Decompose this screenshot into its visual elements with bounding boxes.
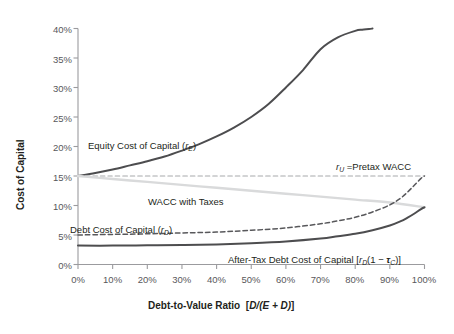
x-tick-90: 90% <box>371 274 407 285</box>
x-tick-100: 100% <box>406 274 442 285</box>
debt-cost-label-text: Debt Cost of Capital ( <box>70 224 161 235</box>
aftertax-debt-cost-label: After-Tax Debt Cost of Capital [rD(1 − τ… <box>228 254 401 266</box>
wacc-with-taxes-label: WACC with Taxes <box>148 196 224 207</box>
aftertax-mid: (1 <box>367 254 378 265</box>
x-axis-title-bracket-close: ] <box>291 300 294 311</box>
x-tick-20: 20% <box>129 274 165 285</box>
x-tick-10: 10% <box>95 274 131 285</box>
x-axis-title-main: Debt-to-Value Ratio <box>148 300 240 311</box>
y-axis-title: Cost of Capital <box>15 139 26 210</box>
aftertax-minus: − <box>378 254 384 265</box>
y-tick-0: 0% <box>30 260 72 271</box>
debt-cost-label: Debt Cost of Capital (rD) <box>70 224 172 236</box>
y-tick-40: 40% <box>30 24 72 35</box>
y-tick-20: 20% <box>30 142 72 153</box>
y-tick-5: 5% <box>30 231 72 242</box>
cost-of-capital-chart: 40% 35% 30% 25% 20% 15% 10% 5% 0% 0% 10%… <box>0 0 454 334</box>
x-tick-80: 80% <box>337 274 373 285</box>
aftertax-tail: )] <box>395 254 401 265</box>
y-tick-25: 25% <box>30 113 72 124</box>
series-curve-2 <box>78 176 425 207</box>
x-tick-0: 0% <box>60 274 96 285</box>
pretax-wacc-text: =Pretax WACC <box>344 161 411 172</box>
series-curves <box>78 29 425 246</box>
y-tick-35: 35% <box>30 54 72 65</box>
y-tick-15: 15% <box>30 172 72 183</box>
series-curve-0 <box>78 29 373 177</box>
x-axis-title-formula: D/(E + D) <box>249 300 291 311</box>
x-axis-title: Debt-to-Value Ratio [D/(E + D)] <box>148 300 294 311</box>
aftertax-label-text: After-Tax Debt Cost of Capital [ <box>228 254 359 265</box>
debt-cost-label-tail: ) <box>169 224 172 235</box>
x-tick-40: 40% <box>198 274 234 285</box>
equity-cost-label-text: Equity Cost of Capital ( <box>88 140 185 151</box>
equity-cost-label-tail: ) <box>193 140 196 151</box>
equity-cost-label: Equity Cost of Capital (rE) <box>88 140 196 152</box>
pretax-wacc-label: rU =Pretax WACC <box>336 161 411 173</box>
x-tick-30: 30% <box>164 274 200 285</box>
x-tick-50: 50% <box>233 274 269 285</box>
x-tick-70: 70% <box>302 274 338 285</box>
x-tick-60: 60% <box>268 274 304 285</box>
y-tick-30: 30% <box>30 83 72 94</box>
y-tick-10: 10% <box>30 201 72 212</box>
